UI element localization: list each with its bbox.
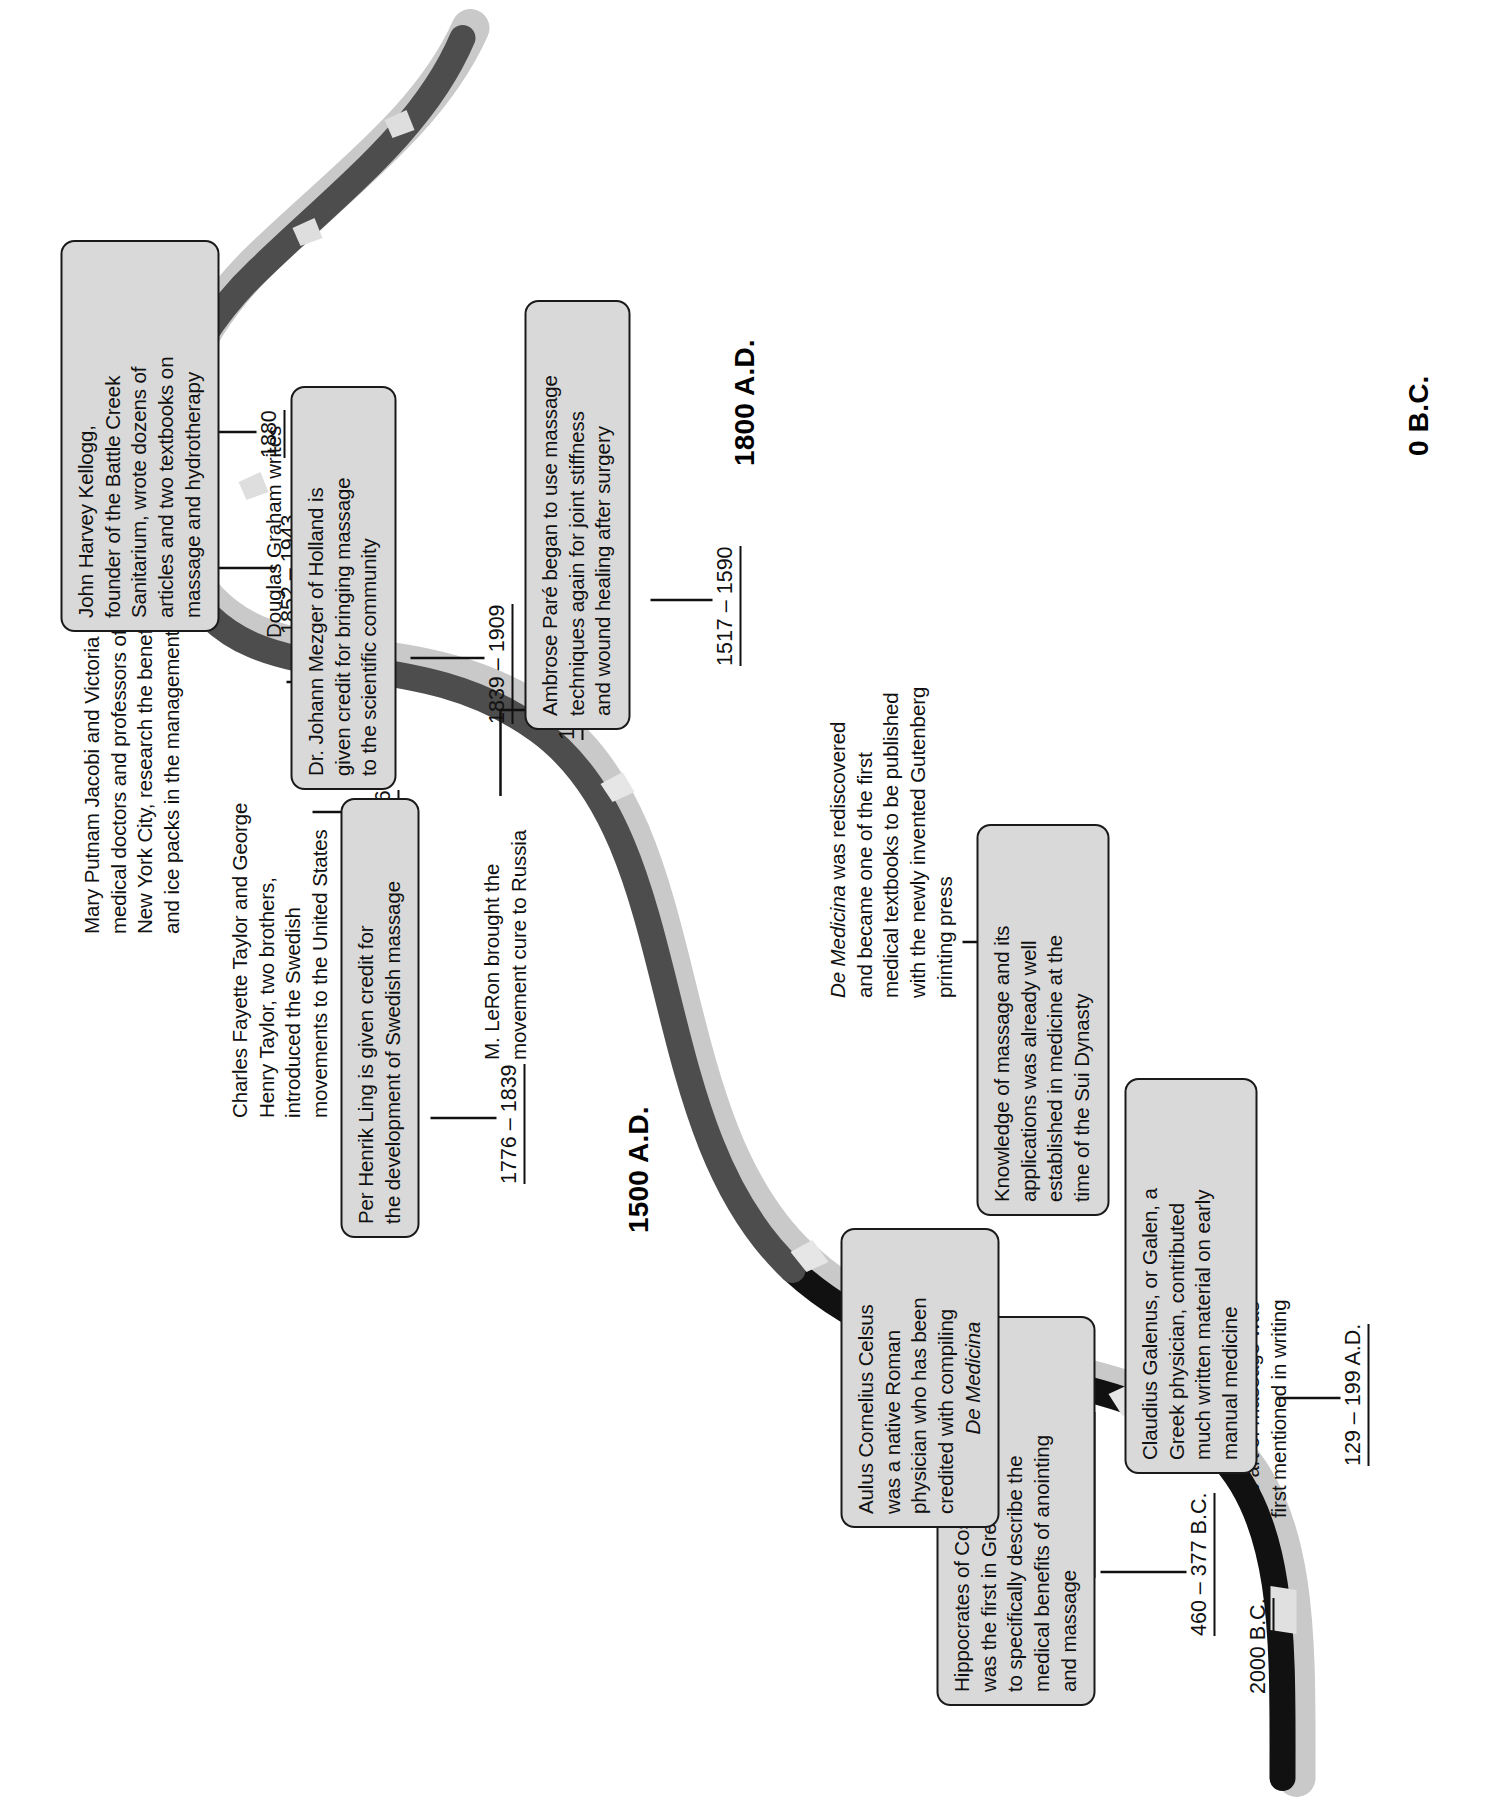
callout-line: Claudius Galenus, or Galen, a bbox=[1136, 1092, 1163, 1460]
note-line-rest: was rediscovered bbox=[825, 722, 848, 886]
callout-line: much written material on early bbox=[1189, 1092, 1216, 1460]
callout-line: manual medicine bbox=[1216, 1092, 1243, 1460]
callout-line: to specifically describe the bbox=[1001, 1330, 1028, 1692]
date-marker-1517-1590: 1517 – 1590 bbox=[712, 546, 741, 666]
note-line: with the newly invented Gutenberg bbox=[904, 578, 931, 998]
note-line: Douglas Graham writes bbox=[260, 368, 287, 638]
era-label-0bc: 0 B.C. bbox=[1402, 375, 1434, 456]
callout-per-henrik-ling[interactable]: Per Henrik Ling is given credit for the … bbox=[340, 798, 419, 1238]
callout-sui-dynasty[interactable]: Knowledge of massage and its application… bbox=[976, 824, 1109, 1216]
note-line: Henry Taylor, two brothers, bbox=[253, 698, 280, 1118]
callout-line: physician who has been bbox=[905, 1242, 932, 1514]
callout-celsus[interactable]: Aulus Cornelius Celsus was a native Roma… bbox=[840, 1228, 999, 1528]
callout-line: De Medicina bbox=[959, 1242, 986, 1514]
note-line: De Medicina was rediscovered bbox=[824, 578, 851, 998]
note-line: printing press bbox=[931, 578, 958, 998]
callout-line: to the scientific community bbox=[355, 400, 382, 776]
era-label-1500ad: 1500 A.D. bbox=[622, 1106, 654, 1233]
callout-line: the development of Swedish massage bbox=[379, 812, 406, 1224]
note-line: movement cure to Russia bbox=[505, 790, 532, 1060]
callout-line: medical benefits of anointing bbox=[1028, 1330, 1055, 1692]
note-line: M. LeRon brought the bbox=[478, 790, 505, 1060]
callout-line: founder of the Battle Creek bbox=[99, 254, 126, 618]
note-line: medical textbooks to be published bbox=[877, 578, 904, 998]
callout-line: and wound healing after surgery bbox=[589, 314, 616, 716]
callout-line: time of the Sui Dynasty bbox=[1068, 838, 1095, 1202]
timeline-ribbon bbox=[0, 0, 1487, 1818]
era-label-1800ad: 1800 A.D. bbox=[728, 339, 760, 466]
date-marker-129-199ad: 129 – 199 A.D. bbox=[1340, 1324, 1369, 1466]
callout-galen[interactable]: Claudius Galenus, or Galen, a Greek phys… bbox=[1124, 1078, 1257, 1474]
date-marker-1776-1839: 1776 – 1839 bbox=[496, 1064, 525, 1184]
callout-johann-mezger[interactable]: Dr. Johann Mezger of Holland is given cr… bbox=[290, 386, 396, 790]
callout-line: John Harvey Kellogg, bbox=[72, 254, 99, 618]
callout-line: articles and two textbooks on bbox=[152, 254, 179, 618]
callout-line: Sanitarium, wrote dozens of bbox=[125, 254, 152, 618]
note-line: and became one of the first bbox=[851, 578, 878, 998]
callout-line: was a native Roman bbox=[879, 1242, 906, 1514]
callout-line: Greek physician, contributed bbox=[1163, 1092, 1190, 1460]
timeline-poster-canvas: 0 B.C. 1500 A.D. 1800 A.D. 2000 B.C. 460… bbox=[0, 0, 1487, 1818]
note-1837: M. LeRon brought the movement cure to Ru… bbox=[478, 790, 531, 1060]
note-line: first mentioned in writing bbox=[1265, 1188, 1292, 1518]
callout-line: Aulus Cornelius Celsus bbox=[852, 1242, 879, 1514]
date-marker-2000bc: 2000 B.C. bbox=[1245, 1598, 1274, 1694]
callout-ambroise-pare[interactable]: Ambrose Paré began to use massage techni… bbox=[524, 300, 630, 730]
callout-line: applications was already well bbox=[1015, 838, 1042, 1202]
callout-line: Ambrose Paré began to use massage bbox=[536, 314, 563, 716]
date-marker-1839-1909: 1839 – 1909 bbox=[484, 604, 513, 724]
callout-line-italic: De Medicina bbox=[960, 1322, 983, 1435]
callout-line: Dr. Johann Mezger of Holland is bbox=[302, 400, 329, 776]
callout-line: massage and hydrotherapy bbox=[179, 254, 206, 618]
callout-line: credited with compiling bbox=[932, 1242, 959, 1514]
callout-john-harvey-kellogg[interactable]: John Harvey Kellogg, founder of the Batt… bbox=[60, 240, 219, 632]
timeline-poster: 0 B.C. 1500 A.D. 1800 A.D. 2000 B.C. 460… bbox=[0, 0, 1487, 1818]
callout-line: techniques again for joint stiffness bbox=[563, 314, 590, 716]
note-title-italic: De Medicina bbox=[825, 885, 848, 998]
callout-line: given credit for bringing massage bbox=[329, 400, 356, 776]
callout-line: Per Henrik Ling is given credit for bbox=[352, 812, 379, 1224]
note-1478ad: De Medicina was rediscovered and became … bbox=[824, 578, 957, 998]
note-line: Charles Fayette Taylor and George bbox=[226, 698, 253, 1118]
date-marker-460-377bc: 460 – 377 B.C. bbox=[1186, 1493, 1215, 1636]
callout-line: Knowledge of massage and its bbox=[988, 838, 1015, 1202]
callout-line: established in medicine at the bbox=[1041, 838, 1068, 1202]
callout-line: and massage bbox=[1055, 1330, 1082, 1692]
